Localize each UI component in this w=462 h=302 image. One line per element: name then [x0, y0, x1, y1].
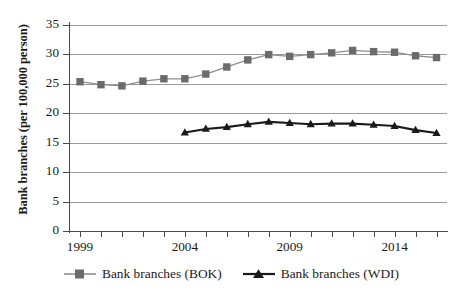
legend-label-wdi: Bank branches (WDI) [281, 266, 399, 282]
series-bank-branches-wdi [181, 118, 441, 136]
legend-label-bok: Bank branches (BOK) [102, 266, 222, 282]
data-point-square [370, 48, 377, 55]
series-plot [0, 0, 462, 302]
data-point-square [412, 52, 419, 59]
chart-legend: Bank branches (BOK) Bank branches (WDI) [0, 266, 462, 282]
data-point-square [349, 47, 356, 54]
data-point-square [265, 51, 272, 58]
legend-marker-square-icon [63, 267, 97, 281]
data-point-square [223, 63, 230, 70]
legend-marker-triangle-icon [242, 267, 276, 281]
data-point-square [181, 75, 188, 82]
data-point-square [76, 78, 83, 85]
data-point-square [160, 75, 167, 82]
data-point-square [97, 81, 104, 88]
data-point-square [307, 51, 314, 58]
series-bank-branches-bok [76, 47, 440, 90]
data-point-square [433, 54, 440, 61]
legend-item-wdi: Bank branches (WDI) [242, 266, 399, 282]
series-line [80, 50, 437, 85]
data-point-square [244, 56, 251, 63]
legend-item-bok: Bank branches (BOK) [63, 266, 222, 282]
data-point-square [286, 53, 293, 60]
data-point-square [139, 77, 146, 84]
data-point-square [118, 82, 125, 89]
data-point-square [391, 49, 398, 56]
data-point-square [202, 70, 209, 77]
data-point-square [328, 49, 335, 56]
chart-figure: Bank branches (per 100,000 person) 05101… [0, 0, 462, 302]
